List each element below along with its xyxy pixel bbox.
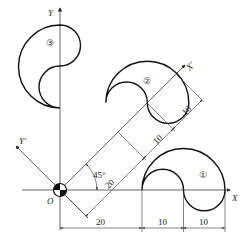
rotated-dim-10a-label: 10 bbox=[151, 132, 165, 146]
y-axis-label: Y bbox=[48, 8, 54, 18]
transformation-diagram: X Y X' Y' O ① ② ③ 45° 20 10 10 20 10 10 bbox=[0, 0, 250, 249]
rotated-extension-2 bbox=[147, 103, 175, 131]
x-axis-label: X bbox=[231, 193, 238, 203]
y-prime-axis-label: Y' bbox=[19, 136, 27, 146]
horizontal-dim-20-label: 20 bbox=[96, 217, 106, 227]
horizontal-dim-10a-label: 10 bbox=[158, 217, 168, 227]
rotated-dim-10b-label: 10 bbox=[180, 103, 194, 117]
shape-2 bbox=[75, 20, 220, 165]
x-prime-axis-label: X' bbox=[183, 59, 197, 73]
shape-3-label: ③ bbox=[46, 38, 54, 48]
shape-1-label: ① bbox=[199, 170, 207, 180]
angle-label: 45° bbox=[93, 170, 106, 180]
origin-label: O bbox=[47, 196, 54, 206]
rotated-extension-origin bbox=[60, 190, 88, 218]
rotated-dim-20 bbox=[86, 158, 144, 216]
rotated-extension-3 bbox=[176, 74, 204, 102]
rotated-extension-1 bbox=[118, 132, 146, 160]
x-prime-axis bbox=[60, 65, 185, 190]
shape-2-outline bbox=[106, 61, 189, 123]
shape-2-label: ② bbox=[143, 76, 151, 86]
horizontal-dim-10b-label: 10 bbox=[199, 217, 209, 227]
